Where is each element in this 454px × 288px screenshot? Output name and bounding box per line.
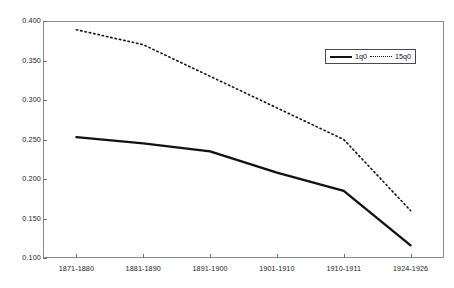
x-tick-label: 1924-1926: [393, 265, 428, 272]
x-tick-label: 1891-1900: [192, 265, 227, 272]
y-tick-mark: [43, 140, 47, 141]
x-tick-mark: [411, 254, 412, 258]
chart-legend: 1q0 15q0: [325, 49, 416, 64]
x-tick-mark: [344, 254, 345, 258]
legend-swatch-1q0: [330, 56, 352, 58]
x-tick-label: 1871-1880: [59, 265, 94, 272]
y-tick-mark: [43, 100, 47, 101]
x-tick-label: 1881-1890: [126, 265, 161, 272]
y-tick-mark: [43, 258, 47, 259]
y-tick-mark: [43, 179, 47, 180]
x-axis: 1871-18801881-18901891-19001901-19101910…: [0, 0, 454, 288]
legend-label-15q0: 15q0: [395, 53, 411, 60]
x-tick-mark: [143, 254, 144, 258]
x-tick-label: 1901-1910: [259, 265, 294, 272]
y-tick-mark: [43, 61, 47, 62]
x-tick-mark: [76, 254, 77, 258]
y-tick-mark: [43, 219, 47, 220]
legend-label-1q0: 1q0: [355, 53, 367, 60]
y-tick-mark: [43, 21, 47, 22]
x-tick-mark: [277, 254, 278, 258]
x-tick-mark: [210, 254, 211, 258]
line-chart: 0.4000.3500.3000.2500.2000.1500.100 1871…: [0, 0, 454, 288]
legend-swatch-15q0: [370, 56, 392, 57]
x-tick-label: 1910-1911: [326, 265, 361, 272]
